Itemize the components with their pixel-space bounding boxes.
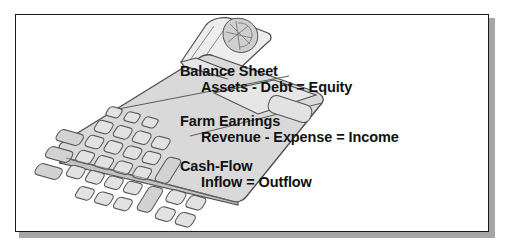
- balance-sheet-formula: Assets - Debt = Equity: [180, 79, 352, 95]
- text-block-farm-earnings: Farm Earnings Revenue - Expense = Income: [180, 113, 399, 145]
- balance-sheet-title: Balance Sheet: [180, 63, 352, 79]
- text-block-cash-flow: Cash-Flow Inflow = Outflow: [180, 158, 312, 190]
- farm-earnings-title: Farm Earnings: [180, 113, 399, 129]
- figure-canvas: .body { fill:#d9d9d9; stroke:#4d4d4d; st…: [0, 0, 512, 246]
- cash-flow-formula: Inflow = Outflow: [180, 174, 312, 190]
- farm-earnings-formula: Revenue - Expense = Income: [180, 129, 399, 145]
- text-block-balance-sheet: Balance Sheet Assets - Debt = Equity: [180, 63, 352, 95]
- cash-flow-title: Cash-Flow: [180, 158, 312, 174]
